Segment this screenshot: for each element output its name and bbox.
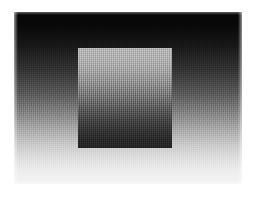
square-halftone-texture xyxy=(78,48,172,148)
square-scanline-texture xyxy=(78,48,172,148)
illusion-image-plate xyxy=(14,12,242,184)
figure-canvas: counter-gradient: light gray at top fadi… xyxy=(0,0,256,197)
inner-test-square xyxy=(78,48,172,148)
